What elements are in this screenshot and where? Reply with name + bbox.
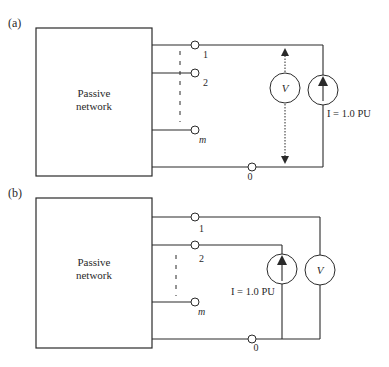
panel-a-label: (a) xyxy=(8,16,21,30)
terminal-2-b xyxy=(191,241,199,249)
terminal-m-a xyxy=(191,126,199,134)
network-label-a-line2: network xyxy=(76,100,113,112)
network-label-a-line1: Passive xyxy=(78,87,111,99)
terminal-1-label-a: 1 xyxy=(203,49,208,60)
terminal-1-label-b: 1 xyxy=(199,223,204,234)
panel-b-label: (b) xyxy=(8,186,22,200)
current-source-label-b: I = 1.0 PU xyxy=(231,286,275,297)
terminal-1-b xyxy=(191,213,199,221)
terminal-2-a xyxy=(191,69,199,77)
terminal-2-label-b: 2 xyxy=(199,253,204,264)
terminal-0-label-b: 0 xyxy=(254,342,259,353)
terminal-0-a xyxy=(248,163,256,171)
terminal-m-label-b: m xyxy=(198,306,205,317)
terminal-m-b xyxy=(191,298,199,306)
panel-a: (a) Passive network 1 2 m 0 V I = 1.0 xyxy=(8,16,371,182)
terminal-m-label-a: m xyxy=(199,134,206,145)
current-source-label-a: I = 1.0 PU xyxy=(327,108,371,119)
terminal-0-label-a: 0 xyxy=(248,171,253,182)
circuit-diagram: (a) Passive network 1 2 m 0 V I = 1.0 xyxy=(0,0,389,367)
terminal-2-label-a: 2 xyxy=(203,77,208,88)
network-label-b-line1: Passive xyxy=(78,256,111,268)
panel-b: (b) Passive network 1 2 m 0 I = 1.0 PU xyxy=(8,186,335,353)
network-label-b-line2: network xyxy=(76,269,113,281)
terminal-1-a xyxy=(191,41,199,49)
